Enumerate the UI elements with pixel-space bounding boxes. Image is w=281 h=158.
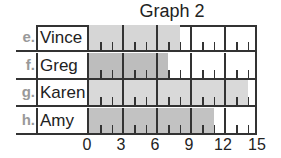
chart-grid: e.Vincef.Gregg.Karenh.Amy: [16, 25, 257, 135]
category-label: Amy: [36, 108, 87, 133]
row-letter: g.: [16, 83, 35, 100]
grid-line: [190, 108, 192, 133]
row-letter: h.: [16, 111, 35, 128]
grid-line: [224, 25, 226, 50]
minor-tick: [248, 42, 250, 50]
minor-tick: [100, 42, 102, 50]
row-letter: e.: [16, 28, 35, 45]
minor-tick: [100, 97, 102, 105]
grid-line: [156, 53, 158, 78]
category-label: Vince: [36, 25, 87, 50]
grid-line: [156, 108, 158, 133]
x-tick-label: 3: [117, 136, 126, 154]
grid-line: [156, 25, 158, 50]
minor-tick: [236, 97, 238, 105]
minor-tick: [168, 42, 170, 50]
grid-line: [122, 108, 124, 133]
bar-row-vince: e.Vince: [16, 25, 257, 52]
category-label: Karen: [36, 80, 87, 105]
minor-tick: [248, 97, 250, 105]
minor-tick: [134, 125, 136, 133]
row-letter: f.: [16, 56, 35, 73]
minor-tick: [202, 97, 204, 105]
grid-line: [224, 53, 226, 78]
minor-tick: [112, 125, 114, 133]
minor-tick: [214, 125, 216, 133]
minor-tick: [168, 70, 170, 78]
grid-line: [190, 80, 192, 105]
minor-tick: [112, 97, 114, 105]
minor-tick: [236, 125, 238, 133]
x-tick-label: 0: [83, 136, 92, 154]
x-tick-label: 15: [248, 136, 266, 154]
x-tick-label: 12: [214, 136, 232, 154]
minor-tick: [112, 70, 114, 78]
chart-title: Graph 2: [87, 1, 257, 22]
minor-tick: [146, 97, 148, 105]
grid-line: [190, 25, 192, 50]
minor-tick: [134, 42, 136, 50]
grid-line: [156, 80, 158, 105]
minor-tick: [100, 125, 102, 133]
plot-area: [87, 80, 257, 105]
minor-tick: [202, 125, 204, 133]
minor-tick: [214, 70, 216, 78]
minor-tick: [236, 70, 238, 78]
minor-tick: [180, 42, 182, 50]
minor-tick: [214, 42, 216, 50]
grid-line: [224, 80, 226, 105]
minor-tick: [146, 70, 148, 78]
minor-tick: [180, 97, 182, 105]
minor-tick: [168, 97, 170, 105]
x-tick-label: 6: [151, 136, 160, 154]
plot-area: [87, 53, 257, 78]
minor-tick: [180, 125, 182, 133]
minor-tick: [146, 125, 148, 133]
minor-tick: [168, 125, 170, 133]
grid-line: [122, 25, 124, 50]
bar-row-karen: g.Karen: [16, 80, 257, 107]
grid-line: [224, 108, 226, 133]
category-label: Greg: [36, 53, 87, 78]
bar-row-greg: f.Greg: [16, 53, 257, 80]
bar-row-amy: h.Amy: [16, 108, 257, 135]
grid-line: [190, 53, 192, 78]
minor-tick: [202, 70, 204, 78]
minor-tick: [134, 70, 136, 78]
grid-line: [122, 80, 124, 105]
x-tick-label: 9: [185, 136, 194, 154]
minor-tick: [180, 70, 182, 78]
minor-tick: [146, 42, 148, 50]
minor-tick: [134, 97, 136, 105]
plot-area: [87, 108, 257, 133]
minor-tick: [236, 42, 238, 50]
grid-line: [122, 53, 124, 78]
minor-tick: [214, 97, 216, 105]
plot-area: [87, 25, 257, 50]
minor-tick: [100, 70, 102, 78]
minor-tick: [248, 70, 250, 78]
minor-tick: [248, 125, 250, 133]
minor-tick: [112, 42, 114, 50]
x-axis-labels: 03691215: [87, 136, 257, 156]
bar: [89, 108, 214, 133]
minor-tick: [202, 42, 204, 50]
